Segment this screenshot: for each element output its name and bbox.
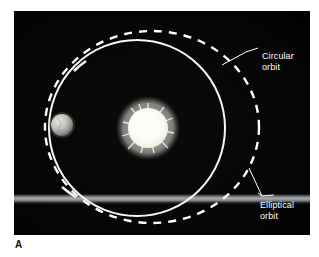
planet [49,112,75,138]
figure-panel-letter: A [15,239,22,250]
label-elliptical-orbit: Elliptical orbit [260,200,294,222]
label-circular-orbit: Circular orbit [262,51,294,73]
figure-page: Circular orbit Elliptical orbit A [0,0,319,257]
sun-disc [128,108,168,148]
planet-disc [51,114,73,136]
sun [116,96,180,160]
illustration-panel: Circular orbit Elliptical orbit [14,11,310,235]
